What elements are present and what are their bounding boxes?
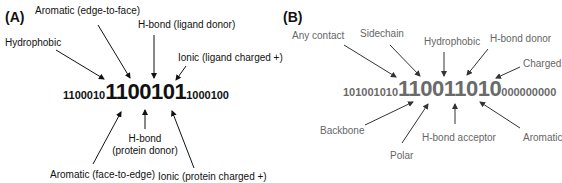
label-hbond-protein-donor-line2: (protein donor) [108, 145, 182, 157]
bitstring-prefix: 101001010 [343, 86, 398, 98]
panel-a-tag: (A) [5, 9, 24, 25]
label-polar: Polar [390, 150, 413, 162]
fingerprint-bitstring-a: 110001011001011000100 [63, 81, 229, 103]
bitstring-suffix: 1000100 [186, 89, 229, 101]
bitstring-prefix: 1100010 [63, 89, 105, 101]
bitstring-highlight: 1100101 [105, 79, 186, 104]
bitstring-suffix: 000000000 [501, 86, 556, 98]
label-ionic-protein-charged: Ionic (protein charged +) [158, 171, 267, 183]
label-aromatic: Aromatic [523, 132, 562, 144]
bitstring-highlight: 110011010 [398, 76, 501, 101]
arrow-hbond-donor [467, 49, 488, 75]
arrow-ionic-ligand-charged [176, 66, 186, 80]
arrow-any-contact [344, 45, 396, 77]
arrow-aromatic [480, 102, 520, 128]
panel-a-ligand-fingerprint: (A) Aromatic (edge-to-face) Hydrophobic … [0, 0, 280, 183]
panel-b-tag: (B) [283, 9, 302, 25]
label-hydrophobic: Hydrophobic [424, 36, 480, 48]
arrow-aromatic-edge-to-face [98, 25, 130, 78]
panel-b-residue-fingerprint: (B) Any contact Sidechain Hydrophobic H-… [280, 0, 562, 183]
label-charged: Charged [523, 58, 561, 70]
label-aromatic-face-to-edge: Aromatic (face-to-edge) [50, 169, 155, 181]
arrow-backbone [365, 102, 413, 125]
fingerprint-bitstring-b: 101001010110011010000000000 [343, 78, 556, 100]
arrow-hydrophobic [56, 50, 104, 79]
label-hbond-ligand-donor: H-bond (ligand donor) [138, 19, 235, 31]
label-backbone: Backbone [320, 125, 364, 137]
label-hbond-donor: H-bond donor [490, 33, 551, 45]
arrow-sidechain [390, 45, 420, 76]
label-hbond-protein-donor-line1: H-bond [108, 133, 182, 145]
label-hbond-protein-donor: H-bond (protein donor) [108, 133, 182, 157]
label-hydrophobic: Hydrophobic [5, 37, 61, 49]
label-hbond-acceptor: H-bond acceptor [422, 132, 496, 144]
label-aromatic-edge-to-face: Aromatic (edge-to-face) [35, 5, 140, 17]
label-ionic-ligand-charged: Ionic (ligand charged +) [178, 52, 283, 64]
label-any-contact: Any contact [292, 30, 344, 42]
label-sidechain: Sidechain [360, 28, 404, 40]
